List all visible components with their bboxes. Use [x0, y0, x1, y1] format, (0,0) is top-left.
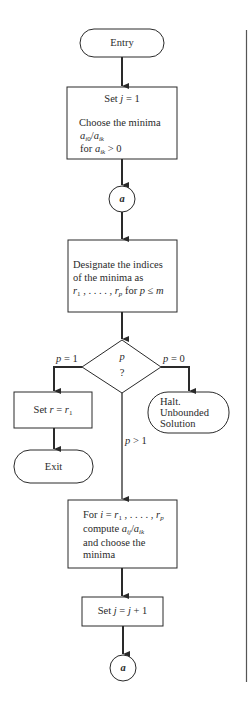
entry-label: Entry	[80, 37, 164, 49]
decision-question: ?	[112, 367, 132, 379]
connector-top-label: a	[109, 193, 135, 205]
halt-line3: Solution	[160, 418, 196, 430]
arrow-p-equals-0	[161, 367, 189, 391]
box1-condition: for aik > 0	[80, 143, 122, 155]
box1-set-j: Set j = 1	[67, 93, 177, 105]
box2-line1: Designate the indices	[73, 259, 163, 271]
set-r-label: Set r = r1	[14, 404, 92, 416]
box3-line1: For i = r1 , . . . . , rp	[83, 509, 164, 521]
exit-label: Exit	[14, 461, 93, 473]
branch-label-p-equals-1: p = 1	[56, 353, 78, 365]
box1-ratio: ai0/aik	[80, 130, 104, 142]
box2-line3: r1 , . . . . , rp for p ≤ m	[73, 285, 164, 297]
box1-choose-minima: Choose the minima	[79, 117, 161, 129]
arrow-p-equals-1	[54, 367, 82, 391]
set-j-increment-label: Set j = j + 1	[82, 605, 163, 617]
branch-label-p-equals-0: p = 0	[163, 353, 185, 365]
decision-p: p	[112, 351, 132, 363]
box3-line4: minima	[83, 549, 115, 561]
box2-line2: of the minima as	[73, 272, 143, 284]
box3-line2: compute aij/aik	[83, 523, 144, 535]
branch-label-p-greater-1: p > 1	[125, 435, 147, 447]
box3-line3: and choose the	[83, 537, 145, 549]
connector-bottom-label: a	[110, 662, 136, 674]
